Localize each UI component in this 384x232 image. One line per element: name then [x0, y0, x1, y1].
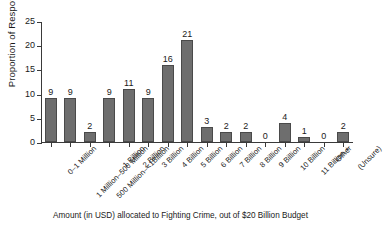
plot-area: 0510152025 9929119162132204102	[41, 22, 353, 143]
y-axis-tick-label: 20	[25, 40, 35, 50]
y-axis-title: Proportion of Respondents	[6, 0, 17, 95]
bar	[142, 98, 154, 142]
bar	[45, 98, 57, 142]
y-axis-tick-label: 10	[25, 89, 35, 99]
y-axis-tick: 5	[37, 119, 42, 120]
bar-value-label: 0	[314, 131, 334, 141]
x-axis-category-labels: 0–1 Million1 Million–500 Million500 Mill…	[41, 144, 353, 206]
bar	[337, 132, 349, 142]
bar-value-label: 2	[334, 121, 354, 131]
bar-value-label: 2	[217, 121, 237, 131]
bar-value-label: 9	[61, 87, 81, 97]
y-axis-tick-label: 25	[25, 16, 35, 26]
bar	[298, 137, 310, 142]
x-axis-category-label: (Unsure)	[356, 144, 384, 172]
bar	[181, 40, 193, 142]
bar	[162, 65, 174, 142]
y-axis-tick: 25	[37, 22, 42, 23]
y-axis-tick: 20	[37, 46, 42, 47]
x-axis-category-label: Other	[333, 144, 353, 164]
bar-value-label: 9	[41, 87, 61, 97]
bar	[123, 89, 135, 142]
bar	[279, 123, 291, 142]
bar-value-label: 3	[197, 116, 217, 126]
bar-value-label: 1	[295, 126, 315, 136]
bar	[201, 127, 213, 142]
bar-value-label: 9	[139, 87, 159, 97]
x-axis-title: Amount (in USD) allocated to Fighting Cr…	[0, 211, 361, 220]
y-axis-line	[41, 22, 42, 143]
bar-value-label: 4	[275, 112, 295, 122]
y-axis-tick-label: 5	[30, 113, 35, 123]
bar-value-label: 2	[80, 121, 100, 131]
bar-value-label: 9	[100, 87, 120, 97]
x-axis-category-label: 0–1 Million	[66, 144, 98, 176]
bar-value-label: 0	[256, 131, 276, 141]
bar-value-label: 21	[178, 29, 198, 39]
bar	[84, 132, 96, 142]
bar-value-label: 16	[158, 54, 178, 64]
bar	[64, 98, 76, 142]
bar	[220, 132, 232, 142]
bar-value-label: 11	[119, 78, 139, 88]
x-axis-line	[41, 142, 353, 143]
bar	[240, 132, 252, 142]
y-axis-tick-label: 0	[30, 137, 35, 147]
y-axis-tick: 15	[37, 70, 42, 71]
bar-value-label: 2	[236, 121, 256, 131]
y-axis-tick-label: 15	[25, 64, 35, 74]
bar	[103, 98, 115, 142]
